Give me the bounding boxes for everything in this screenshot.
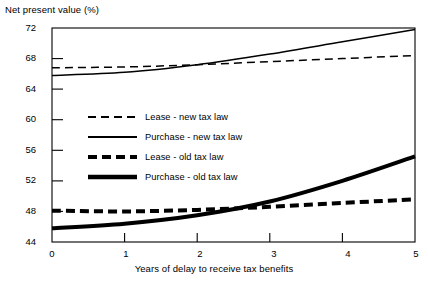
legend-label-purchase-old-tax-law: Purchase - old tax law <box>145 172 238 182</box>
legend-label-purchase-new-tax-law: Purchase - new tax law <box>145 132 242 142</box>
y-axis-ticks <box>52 59 63 212</box>
x-axis-ticks <box>125 233 343 242</box>
series-line-purchase-new-tax-law <box>52 30 415 76</box>
x-axis-title: Years of delay to receive tax benefits <box>0 263 428 274</box>
chart-container: Net present value (%) 72 68 64 60 56 52 … <box>0 0 428 283</box>
legend-label-lease-old-tax-law: Lease - old tax law <box>145 152 223 162</box>
series-line-purchase-old-tax-law <box>52 156 415 228</box>
legend-swatches <box>88 117 137 177</box>
legend-label-lease-new-tax-law: Lease - new tax law <box>145 112 228 122</box>
series-line-lease-new-tax-law <box>52 56 415 68</box>
